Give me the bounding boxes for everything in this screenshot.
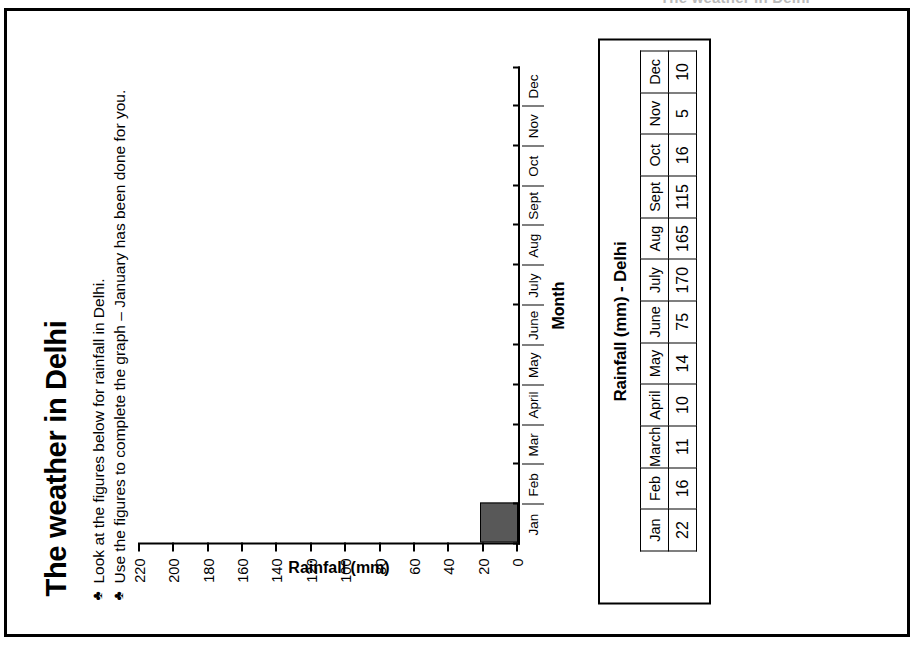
table-header-cell: Nov xyxy=(641,92,669,134)
x-axis-tick-label: Aug xyxy=(520,225,546,265)
bar-series xyxy=(140,66,518,542)
instruction-text: Use the figures to complete the graph – … xyxy=(109,89,130,583)
table-title: Rainfall (mm) - Delhi xyxy=(611,50,631,592)
y-axis-tick: 40 xyxy=(447,542,449,551)
x-axis-separator xyxy=(522,145,544,146)
month-label: Sept xyxy=(526,192,541,220)
table-header-cell: Sept xyxy=(641,176,669,218)
bar-slot-oct xyxy=(140,145,518,185)
month-label: June xyxy=(526,310,541,339)
rainfall-data-table: JanFebMarchAprilMayJuneJulyAugSeptOctNov… xyxy=(640,50,697,592)
month-label: Feb xyxy=(526,473,541,496)
table-value-cell: 16 xyxy=(669,467,697,509)
x-axis-tick-label: Sept xyxy=(520,186,546,226)
table-value-cell: 16 xyxy=(669,134,697,176)
table-value-cell: 115 xyxy=(669,176,697,218)
y-axis-tick: 180 xyxy=(207,542,209,551)
x-axis-tick-label: April xyxy=(520,385,546,425)
bar-slot-july xyxy=(140,264,518,304)
table-value-cell: 11 xyxy=(669,425,697,467)
month-label: Aug xyxy=(526,233,541,257)
bar-slot-aug xyxy=(140,225,518,265)
y-axis-tick: 100 xyxy=(344,542,346,551)
x-axis-tick-label: July xyxy=(520,265,546,305)
club-bullet-icon: ♣ xyxy=(88,583,107,600)
table-header-cell: Oct xyxy=(641,134,669,176)
x-axis-separator xyxy=(522,224,544,225)
table-corner-cell xyxy=(641,550,669,592)
y-axis-tick-label: 60 xyxy=(407,558,423,574)
table-corner-cell xyxy=(669,550,697,592)
x-axis-separator xyxy=(522,424,544,425)
bar-slot-june xyxy=(140,304,518,344)
page-title: The weather in Delhi xyxy=(40,320,73,596)
x-axis-separator xyxy=(522,384,544,385)
y-axis-tick-label: 20 xyxy=(476,558,492,574)
x-axis-tick-label: Jan xyxy=(520,504,546,544)
x-axis-tick-label: Feb xyxy=(520,464,546,504)
y-axis-tick: 120 xyxy=(310,542,312,551)
bar-slot-feb xyxy=(140,463,518,503)
x-axis-separator xyxy=(522,304,544,305)
chart-plot-area: 020406080100120140160180200220 xyxy=(140,66,520,544)
instructions-list: ♣ Look at the figures below for rainfall… xyxy=(88,40,131,600)
table-value-cell: 165 xyxy=(669,217,697,259)
rainfall-bar-chart: 020406080100120140160180200220 Rainfall … xyxy=(140,66,550,544)
y-axis-title: Rainfall (mm) xyxy=(288,558,389,576)
y-axis-tick: 20 xyxy=(482,542,484,551)
club-bullet-icon: ♣ xyxy=(109,583,128,600)
y-axis-tick: 80 xyxy=(379,542,381,551)
month-label: July xyxy=(526,273,541,297)
month-label: Nov xyxy=(526,114,541,138)
x-axis-tick-label: Oct xyxy=(520,146,546,186)
y-axis-tick-label: 140 xyxy=(269,558,285,582)
bar-jan xyxy=(480,502,518,542)
x-axis-separator xyxy=(522,344,544,345)
x-axis-separator xyxy=(522,264,544,265)
bar-slot-sept xyxy=(140,185,518,225)
table-value-cell: 10 xyxy=(669,384,697,426)
x-axis-tick-label: May xyxy=(520,345,546,385)
table-header-cell: May xyxy=(641,342,669,384)
y-axis-tick-label: 200 xyxy=(166,558,182,582)
bar-slot-dec xyxy=(140,66,518,106)
x-axis: JanFebMarAprilMayJuneJulyAugSeptOctNovDe… xyxy=(520,66,546,544)
page-frame: The weather in Delhi ♣ Look at the figur… xyxy=(4,8,910,637)
x-axis-separator xyxy=(522,185,544,186)
y-axis-tick: 160 xyxy=(241,542,243,551)
table-row: JanFebMarchAprilMayJuneJulyAugSeptOctNov… xyxy=(641,51,669,593)
table-header-cell: Aug xyxy=(641,217,669,259)
bar-slot-jan xyxy=(140,502,518,542)
x-axis-tick-label: Dec xyxy=(520,66,546,106)
x-axis-tick-label: Mar xyxy=(520,425,546,465)
cut-off-header-sliver: The weather in Delhi xyxy=(0,0,920,7)
table-value-cell: 22 xyxy=(669,509,697,551)
table-header-cell: June xyxy=(641,301,669,343)
bar-slot-april xyxy=(140,383,518,423)
list-item: ♣ Use the figures to complete the graph … xyxy=(109,40,130,600)
x-axis-tick-label: June xyxy=(520,305,546,345)
table-header-cell: July xyxy=(641,259,669,301)
month-label: May xyxy=(526,352,541,378)
month-label: Dec xyxy=(526,74,541,98)
table-header-cell: Feb xyxy=(641,467,669,509)
x-axis-separator xyxy=(522,503,544,504)
x-axis-tick-label: Nov xyxy=(520,106,546,146)
y-axis-tick-label: 220 xyxy=(132,558,148,582)
table-value-cell: 10 xyxy=(669,51,697,93)
y-axis-tick: 220 xyxy=(138,542,140,551)
table-header-cell: Dec xyxy=(641,51,669,93)
bar-slot-mar xyxy=(140,423,518,463)
cut-off-header-text: The weather in Delhi xyxy=(660,0,810,6)
table-value-cell: 75 xyxy=(669,301,697,343)
worksheet-sheet: The weather in Delhi ♣ Look at the figur… xyxy=(12,15,902,630)
table-row: 22161110147517016511516510 xyxy=(669,51,697,593)
table-value-cell: 14 xyxy=(669,342,697,384)
y-axis-tick-label: 0 xyxy=(510,558,526,566)
table-header-cell: March xyxy=(641,425,669,467)
x-axis-separator xyxy=(522,105,544,106)
x-axis-title: Month xyxy=(550,66,568,544)
y-axis-tick: 200 xyxy=(172,542,174,551)
y-axis-tick-label: 180 xyxy=(201,558,217,582)
y-axis-tick-label: 40 xyxy=(441,558,457,574)
